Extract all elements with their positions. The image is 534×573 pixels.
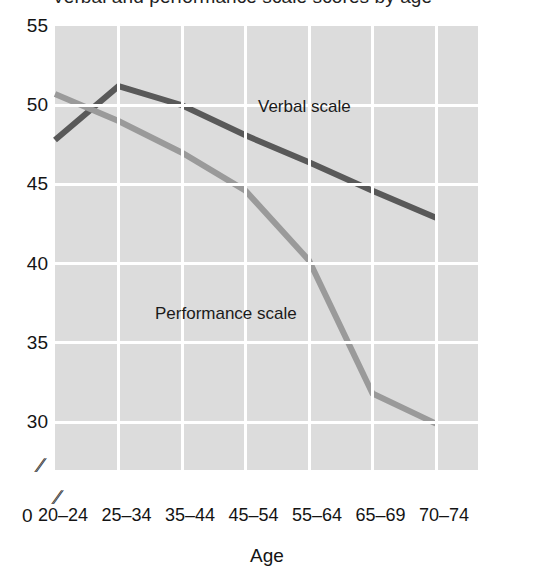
y-axis-tick-label: 40 xyxy=(2,254,48,273)
gridline-vertical xyxy=(244,26,247,470)
y-axis: 555045403530 xyxy=(0,0,48,573)
series-label-performance: Performance scale xyxy=(155,304,297,324)
x-axis: 0 20–2425–3435–4445–5455–6465–6970–74 xyxy=(0,505,534,531)
gridline-vertical xyxy=(181,26,184,470)
y-axis-tick-label: 45 xyxy=(2,174,48,193)
chart-title: Verbal and performance scale scores by a… xyxy=(52,0,432,8)
x-axis-title: Age xyxy=(0,545,534,567)
y-axis-break-icon: ∕∕ xyxy=(38,455,41,476)
gridline-vertical xyxy=(308,26,311,470)
x-axis-tick-label: 35–44 xyxy=(165,505,215,526)
gridline-vertical xyxy=(435,26,438,470)
x-axis-tick-label: 20–24 xyxy=(38,505,88,526)
x-axis-tick-label: 25–34 xyxy=(101,505,151,526)
x-axis-tick-label: 70–74 xyxy=(419,505,469,526)
x-axis-tick-label: 55–64 xyxy=(292,505,342,526)
y-axis-tick-label: 35 xyxy=(2,333,48,352)
plot-area xyxy=(55,26,478,470)
x-axis-tick-label: 65–69 xyxy=(355,505,405,526)
x-axis-origin-label: 0 xyxy=(22,505,33,527)
gridline-vertical xyxy=(371,26,374,470)
y-axis-tick-label: 50 xyxy=(2,95,48,114)
y-axis-tick-label: 55 xyxy=(2,16,48,35)
series-label-verbal: Verbal scale xyxy=(258,97,351,117)
gridline-vertical xyxy=(117,26,120,470)
y-axis-tick-label: 30 xyxy=(2,412,48,431)
x-axis-tick-label: 45–54 xyxy=(228,505,278,526)
chart-figure: Verbal and performance scale scores by a… xyxy=(0,0,534,573)
